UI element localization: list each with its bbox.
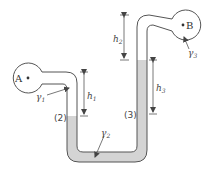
h2-label: h2 bbox=[113, 34, 123, 45]
point-b-dot bbox=[182, 24, 185, 27]
manometer-tube bbox=[42, 15, 172, 162]
gamma1-label: γ1 bbox=[36, 92, 45, 103]
gamma2-label: γ2 bbox=[101, 128, 110, 139]
vessel-a-label: A bbox=[14, 73, 23, 84]
point-3-label: (3) bbox=[124, 110, 137, 120]
gamma3-label: γ3 bbox=[188, 48, 197, 59]
h3-label: h3 bbox=[156, 83, 166, 94]
manometer-diagram: A B γ1 γ2 γ3 h1 h2 h3 (2) (3) bbox=[0, 0, 209, 171]
vessel-b-label: B bbox=[186, 20, 193, 31]
point-a-dot bbox=[27, 77, 30, 80]
h1-label: h1 bbox=[87, 91, 97, 102]
point-2-label: (2) bbox=[54, 113, 67, 123]
gamma1-leader bbox=[47, 88, 69, 95]
